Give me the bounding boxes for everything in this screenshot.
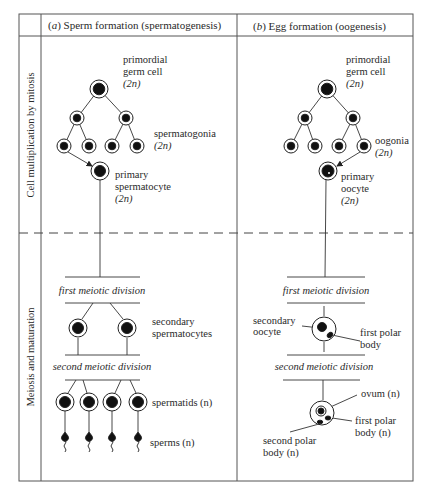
label-primordial-germ-cell-a: primordial germ cell (2n) [123,54,170,90]
label-secondary-oocyte: secondary oocyte [253,315,298,337]
row-label-mitosis: Cell multiplication by mitosis [25,72,36,197]
label-first-meiotic-division-a: first meiotic division [59,285,145,296]
label-first-meiotic-division-b: first meiotic division [283,285,369,296]
secondary-oocyte [312,317,336,341]
row-label-meiosis: Meiosis and maturation [25,307,36,407]
label-first-polar-body-n: first polar body (n) [355,415,399,439]
ovum [310,401,334,425]
spermatid [80,393,98,411]
oogonium [308,139,322,153]
label-secondary-spermatocytes: secondary spermatocytes [152,316,212,339]
svg-text:(b) Egg formation (oogenesis): (b) Egg formation (oogenesis) [253,20,386,33]
spermatid [56,393,74,411]
label-primary-spermatocyte: primary spermatocyte (2n) [115,169,174,205]
oogonium [332,139,346,153]
primary-oocyte [319,162,337,180]
label-first-polar-body: first polar body [360,327,404,350]
sperm [135,432,142,452]
spermatid [103,393,121,411]
oogonium [346,111,360,125]
svg-text:(a) Sperm formation (spermato: (a) Sperm formation (spermatogenesis) [48,19,222,32]
spermatogonium [105,139,119,153]
header-col-a: (a) Sperm formation (spermatogenesis) [48,19,222,32]
label-spermatids: spermatids (n) [152,397,213,409]
primordial-germ-cell-sperm [90,80,108,98]
spermatid [129,393,147,411]
label-second-meiotic-division-b: second meiotic division [275,361,374,372]
label-primordial-germ-cell-b: primordial germ cell (2n) [346,54,393,90]
label-spermatogonia: spermatogonia (2n) [154,128,218,152]
oogonium [357,139,371,153]
sperm [109,432,116,452]
primordial-germ-cell-egg [318,80,336,98]
spermatogonium [82,139,96,153]
label-second-polar-body: second polar body (n) [263,435,319,459]
sperms [62,432,142,452]
spermatogonium [130,139,144,153]
secondary-spermatocyte [69,319,87,337]
label-second-meiotic-division-a: second meiotic division [53,361,152,372]
label-primary-oocyte: primary oocyte (2n) [341,171,377,207]
label-oogonia: oogonia (2n) [375,135,411,159]
primary-spermatocyte [91,162,109,180]
label-ovum: ovum (n) [361,388,400,400]
secondary-spermatocyte [118,319,136,337]
spermatogonium [57,139,71,153]
header-col-b: (b) Egg formation (oogenesis) [253,20,386,33]
sperm [86,432,93,452]
oogonium [298,111,312,125]
spermatogonium [119,111,133,125]
oogonium [284,139,298,153]
label-sperms: sperms (n) [150,437,195,449]
gametogenesis-diagram: (a) Sperm formation (spermatogenesis) (b… [0,0,431,485]
sperm [62,432,69,452]
spermatogenesis-tree [64,89,140,432]
spermatogonium [70,111,84,125]
